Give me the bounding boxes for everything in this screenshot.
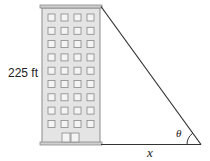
window xyxy=(74,27,81,34)
window xyxy=(61,107,68,114)
window xyxy=(48,120,55,127)
window xyxy=(87,27,94,34)
window xyxy=(61,54,68,61)
window xyxy=(87,120,94,127)
building-base xyxy=(40,142,102,145)
window xyxy=(61,120,68,127)
base-label: x xyxy=(147,145,153,161)
angle-arc xyxy=(187,133,193,144)
window xyxy=(87,14,94,21)
window xyxy=(87,107,94,114)
window xyxy=(87,54,94,61)
window xyxy=(48,14,55,21)
window xyxy=(74,81,81,88)
window xyxy=(61,94,68,101)
hypotenuse-line xyxy=(101,7,201,145)
window xyxy=(48,54,55,61)
window xyxy=(61,67,68,74)
window xyxy=(87,67,94,74)
window xyxy=(48,27,55,34)
window xyxy=(61,14,68,21)
building-door xyxy=(71,133,79,142)
window xyxy=(48,41,55,48)
window xyxy=(48,67,55,74)
window xyxy=(48,81,55,88)
window xyxy=(48,94,55,101)
height-label: 225 ft xyxy=(8,66,38,80)
window xyxy=(74,94,81,101)
window xyxy=(74,107,81,114)
window xyxy=(61,27,68,34)
window xyxy=(74,14,81,21)
window xyxy=(87,94,94,101)
angle-label: θ xyxy=(176,127,181,139)
window xyxy=(61,41,68,48)
window xyxy=(74,41,81,48)
window xyxy=(87,81,94,88)
window xyxy=(74,67,81,74)
building-door xyxy=(62,133,70,142)
building-roof xyxy=(40,5,102,8)
window xyxy=(61,81,68,88)
window xyxy=(74,54,81,61)
window xyxy=(74,120,81,127)
window xyxy=(48,107,55,114)
window xyxy=(87,41,94,48)
